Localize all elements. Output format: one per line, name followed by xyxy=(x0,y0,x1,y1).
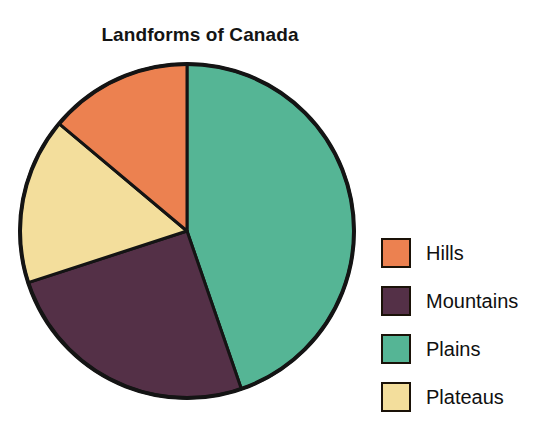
page-title: Landforms of Canada xyxy=(0,24,400,46)
legend-item-mountains[interactable]: Mountains xyxy=(381,277,551,325)
pie-chart-svg xyxy=(14,58,364,408)
legend-item-plains[interactable]: Plains xyxy=(381,325,551,373)
legend-swatch-plains xyxy=(381,334,411,364)
legend-label-plateaus: Plateaus xyxy=(426,387,504,407)
legend-label-mountains: Mountains xyxy=(426,291,518,311)
legend: Hills Mountains Plains Plateaus xyxy=(381,229,551,421)
legend-swatch-plateaus xyxy=(381,382,411,412)
legend-swatch-hills xyxy=(381,238,411,268)
legend-label-hills: Hills xyxy=(426,243,464,263)
legend-swatch-mountains xyxy=(381,286,411,316)
pie-chart-figure: Landforms of Canada Hills Mountains Plai… xyxy=(0,0,556,430)
legend-item-plateaus[interactable]: Plateaus xyxy=(381,373,551,421)
legend-item-hills[interactable]: Hills xyxy=(381,229,551,277)
pie-chart xyxy=(14,58,364,408)
legend-label-plains: Plains xyxy=(426,339,480,359)
